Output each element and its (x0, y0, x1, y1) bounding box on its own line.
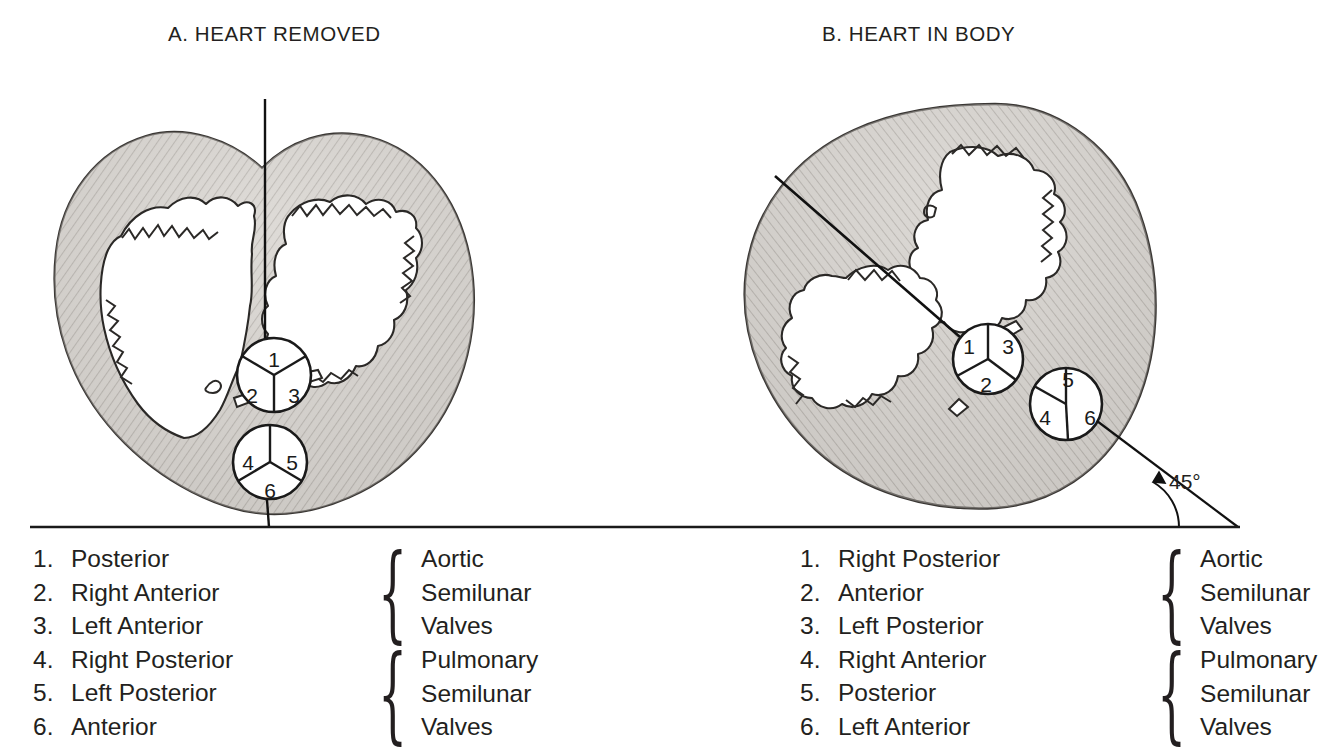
legend-label: Anterior (71, 710, 157, 744)
brace-line: Valves (1200, 713, 1272, 740)
valve-cusp-number: 3 (288, 384, 300, 407)
panel-b-pulmonary-valve: 5 4 6 (1030, 368, 1102, 440)
brace-line: Semilunar (421, 579, 531, 606)
legend-label: Right Posterior (838, 542, 1000, 576)
valve-cusp-number: 4 (1039, 406, 1051, 429)
valve-cusp-number: 5 (1062, 368, 1074, 391)
legend-label: Right Anterior (71, 576, 219, 610)
legend-item: 4. Right Posterior (33, 643, 233, 677)
left-brace-icon: { (378, 645, 407, 742)
legend-number: 5. (800, 676, 838, 710)
brace-text: Aortic Semilunar Valves (421, 542, 531, 643)
valve-cusp-number: 1 (963, 335, 975, 358)
legend-number: 4. (33, 643, 71, 677)
brace-line: Aortic (421, 545, 484, 572)
legend-label: Left Posterior (838, 609, 984, 643)
angle-hypotenuse-line (1097, 421, 1238, 527)
legend-label: Right Posterior (71, 643, 233, 677)
valve-cusp-number: 5 (286, 451, 298, 474)
panel-b-pulmonary-brace: { Pulmonary Semilunar Valves (1157, 643, 1317, 744)
left-brace-icon: { (1157, 544, 1186, 641)
brace-text: Aortic Semilunar Valves (1200, 542, 1310, 643)
valve-cusp-number: 6 (1084, 406, 1096, 429)
panel-b-heart: 1 3 2 5 4 6 (745, 104, 1238, 527)
legend-item: 1. Posterior (33, 542, 233, 576)
legend-label: Left Anterior (838, 710, 970, 744)
legend-number: 2. (33, 576, 71, 610)
brace-line: Valves (421, 713, 493, 740)
panel-a-legend: 1. Posterior 2. Right Anterior 3. Left A… (33, 542, 233, 744)
legend-number: 1. (33, 542, 71, 576)
brace-line: Semilunar (1200, 579, 1310, 606)
valve-cusp-number: 1 (268, 348, 280, 371)
brace-line: Pulmonary (1200, 646, 1317, 673)
legend-number: 3. (800, 609, 838, 643)
legend-label: Right Anterior (838, 643, 986, 677)
legend-item: 3. Left Anterior (33, 609, 233, 643)
brace-line: Aortic (1200, 545, 1263, 572)
valve-cusp-number: 2 (980, 373, 992, 396)
panel-b-legend: 1. Right Posterior 2. Anterior 3. Left P… (800, 542, 1000, 744)
legend-number: 4. (800, 643, 838, 677)
legend-label: Posterior (838, 676, 936, 710)
legend-number: 6. (33, 710, 71, 744)
angle-arrowhead (1153, 472, 1165, 483)
brace-line: Valves (1200, 612, 1272, 639)
panel-a-heart: 1 2 3 4 5 6 (54, 99, 473, 527)
left-brace-icon: { (1157, 645, 1186, 742)
legend-label: Left Posterior (71, 676, 217, 710)
legend-item: 2. Anterior (800, 576, 1000, 610)
valve-cusp-number: 4 (242, 451, 254, 474)
brace-text: Pulmonary Semilunar Valves (1200, 643, 1317, 744)
legend-item: 5. Posterior (800, 676, 1000, 710)
legend-label: Left Anterior (71, 609, 203, 643)
figure-page: A. HEART REMOVED B. HEART IN BODY (0, 0, 1322, 756)
legend-number: 1. (800, 542, 838, 576)
valve-cusp-number: 6 (264, 479, 276, 502)
legend-item: 4. Right Anterior (800, 643, 1000, 677)
valve-cusp-number: 3 (1002, 335, 1014, 358)
legend-item: 6. Left Anterior (800, 710, 1000, 744)
brace-line: Valves (421, 612, 493, 639)
panel-a-aortic-brace: { Aortic Semilunar Valves (378, 542, 531, 643)
legend-label: Posterior (71, 542, 169, 576)
legend-number: 3. (33, 609, 71, 643)
legend-label: Anterior (838, 576, 924, 610)
legend-number: 2. (800, 576, 838, 610)
angle-45-label: 45° (1169, 470, 1201, 494)
left-brace-icon: { (378, 544, 407, 641)
brace-line: Semilunar (1200, 680, 1310, 707)
legend-number: 5. (33, 676, 71, 710)
legend-item: 2. Right Anterior (33, 576, 233, 610)
brace-line: Pulmonary (421, 646, 538, 673)
valve-cusp-number: 2 (246, 384, 258, 407)
legend-item: 5. Left Posterior (33, 676, 233, 710)
legend-item: 3. Left Posterior (800, 609, 1000, 643)
legend-item: 6. Anterior (33, 710, 233, 744)
legend-number: 6. (800, 710, 838, 744)
legend-item: 1. Right Posterior (800, 542, 1000, 576)
brace-text: Pulmonary Semilunar Valves (421, 643, 538, 744)
panel-b-aortic-brace: { Aortic Semilunar Valves (1157, 542, 1310, 643)
brace-line: Semilunar (421, 680, 531, 707)
panel-a-pulmonary-brace: { Pulmonary Semilunar Valves (378, 643, 538, 744)
